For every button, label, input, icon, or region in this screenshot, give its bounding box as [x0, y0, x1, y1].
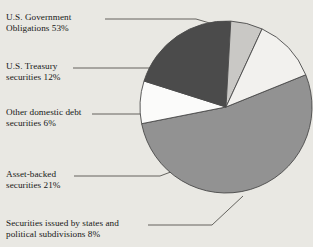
label-other-domestic-debt: Other domestic debt securities 6%	[6, 107, 81, 129]
leader-line-government	[105, 19, 213, 24]
label-states-securities-line2: political subdivisions 8%	[6, 229, 119, 240]
leader-line-asset-backed	[74, 170, 176, 176]
label-treasury-securities: U.S. Treasury securities 12%	[6, 61, 61, 83]
label-asset-backed-securities: Asset-backed securities 21%	[6, 169, 61, 191]
label-government-obligations-line1: U.S. Government	[6, 12, 71, 23]
label-states-securities: Securities issued by states and politica…	[6, 218, 119, 240]
leader-line-states	[148, 196, 243, 225]
label-asset-backed-securities-line2: securities 21%	[6, 180, 61, 191]
label-asset-backed-securities-line1: Asset-backed	[6, 169, 61, 180]
label-treasury-securities-line2: securities 12%	[6, 72, 61, 83]
label-government-obligations: U.S. Government Obligations 53%	[6, 12, 71, 34]
label-other-domestic-debt-line2: securities 6%	[6, 118, 81, 129]
label-government-obligations-line2: Obligations 53%	[6, 23, 71, 34]
label-treasury-securities-line1: U.S. Treasury	[6, 61, 61, 72]
label-other-domestic-debt-line1: Other domestic debt	[6, 107, 81, 118]
label-states-securities-line1: Securities issued by states and	[6, 218, 119, 229]
pie-slices	[140, 21, 312, 193]
